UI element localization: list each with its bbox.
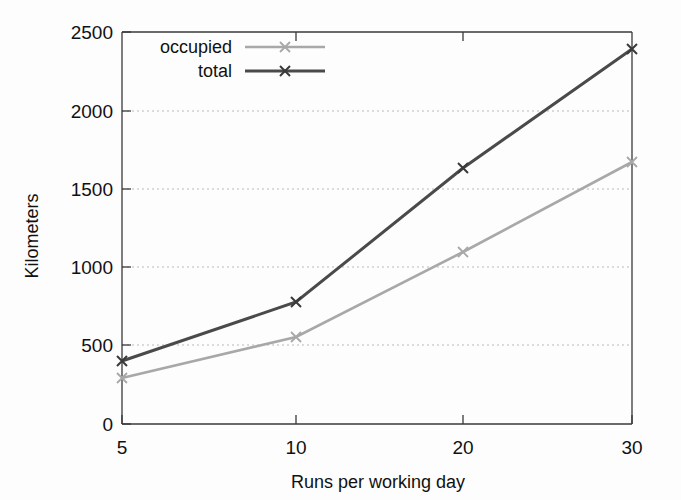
x-tick-label-20: 20 bbox=[452, 437, 473, 458]
x-tick-label-10: 10 bbox=[285, 437, 306, 458]
y-tick-label-2500: 2500 bbox=[71, 22, 113, 43]
legend-label-total: total bbox=[198, 61, 232, 81]
y-tick-label-1500: 1500 bbox=[71, 179, 113, 200]
line-chart-canvas: 2500 2000 1500 1000 500 0 5 10 20 30 Run… bbox=[0, 0, 681, 500]
legend-label-occupied: occupied bbox=[160, 37, 232, 57]
chart-figure: 2500 2000 1500 1000 500 0 5 10 20 30 Run… bbox=[0, 0, 681, 500]
y-tick-label-500: 500 bbox=[81, 335, 113, 356]
x-axis-title: Runs per working day bbox=[291, 472, 465, 492]
y-tick-label-0: 0 bbox=[102, 414, 113, 435]
y-axis-title: Kilometers bbox=[22, 193, 42, 278]
x-tick-label-5: 5 bbox=[117, 437, 128, 458]
y-tick-label-2000: 2000 bbox=[71, 101, 113, 122]
x-tick-label-30: 30 bbox=[621, 437, 642, 458]
y-tick-label-1000: 1000 bbox=[71, 257, 113, 278]
